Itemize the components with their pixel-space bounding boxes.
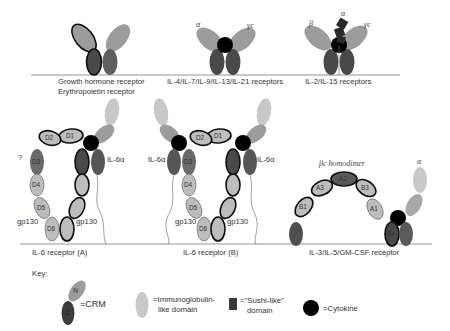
key-cytokine-label: =Cytokine (323, 304, 358, 313)
domain-d1-label-b: D1 (214, 132, 223, 139)
cytokine-receptor-diagram: Growth hormone receptor Erythropoietin r… (0, 0, 450, 331)
key-title: Key: (32, 269, 48, 278)
domain-d6-label: D6 (47, 225, 56, 232)
cytokine-icon (217, 37, 233, 53)
key-crm-n-glyph: N (73, 287, 78, 294)
gp130-left-label-b: gp130 (175, 217, 196, 226)
domain-b3-label: B3 (361, 184, 369, 191)
key-cytokine-icon (303, 300, 319, 316)
key-crm-label: =CRM (80, 299, 106, 309)
il6-alpha-label: IL-6α (107, 155, 125, 164)
domain-a3-label: A3 (316, 184, 324, 191)
gamma-c-chain-label-il2: γc (364, 20, 371, 29)
domain-d5-label: D5 (37, 204, 46, 211)
domain-d3-label: D3 (32, 158, 41, 165)
epo-receptor-label: Erythropoietin receptor (58, 87, 135, 96)
domain-a2-label: A2 (339, 175, 347, 182)
alpha-chain-label-il2: α (341, 9, 346, 18)
gp130-right-label: gp130 (76, 217, 97, 226)
beta-c-homodimer-label: βc homodimer (318, 159, 366, 168)
il6-alpha-left-label: IL-6α (148, 155, 166, 164)
beta-chain-label: β (308, 19, 313, 28)
domain-d4-label: D4 (32, 181, 41, 188)
domain-d2-label: D2 (45, 134, 54, 141)
il6-receptor-b (152, 97, 274, 244)
alpha-chain-label: α (196, 20, 201, 29)
il4-family-label: IL-4/IL-7/IL-9/IL-13/IL-21 receptors (167, 77, 283, 86)
il6-receptor-b-label: IL-6 receptor (B) (183, 248, 239, 257)
domain-a1-label: A1 (370, 205, 378, 212)
key-ig-label-line2: like domain (158, 305, 197, 314)
domain-b1-label: B1 (299, 203, 307, 210)
alpha-chain-label-il3: α (417, 157, 422, 166)
il6-receptor-a-label: IL-6 receptor (A) (32, 248, 88, 257)
key-sushi-label-line2: domain (247, 306, 273, 315)
domain-d1-label: D1 (66, 132, 75, 139)
il2-family-label: IL-2/IL-15 receptors (305, 77, 371, 86)
question-mark: ? (18, 153, 22, 162)
key-ig-label-line1: =Immunoglobulin- (153, 295, 216, 304)
il6-alpha-right-label: IL-6α (257, 155, 275, 164)
domain-d5-label-b: D5 (189, 204, 198, 211)
gp130-left-label: gp130 (17, 217, 38, 226)
domain-b4-label: B4 (387, 230, 395, 237)
il4-family-receptor (192, 23, 260, 75)
gh-epo-receptor (67, 20, 135, 75)
key-sushi-domain-icon (229, 298, 237, 310)
key-sushi-label-line1: ="Sushi-like" (240, 296, 284, 305)
domain-d2-label-b: D2 (196, 134, 205, 141)
key-ig-domain-icon (136, 292, 149, 318)
gp130-right-label-b: gp130 (227, 217, 248, 226)
gamma-c-chain-label: γc (247, 21, 254, 30)
gh-receptor-label: Growth hormone receptor (58, 77, 145, 86)
domain-d3-label-b: D3 (184, 158, 193, 165)
il3-family-label: IL-3/IL-5/GM-CSF receptor (309, 248, 400, 257)
il3-family-receptor (289, 167, 427, 246)
domain-d6-label-b: D6 (199, 225, 208, 232)
key-crm-c-glyph: C (65, 309, 70, 316)
domain-d4-label-b: D4 (184, 181, 193, 188)
